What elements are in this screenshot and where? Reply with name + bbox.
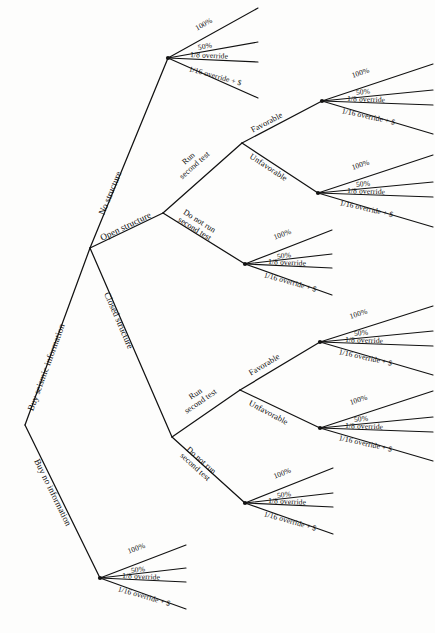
outcome-label-eighth: 1/8 override [345, 336, 383, 345]
edge-open-unfavorable [242, 143, 318, 193]
decision-tree-diagram: Buy seismic information Buy no informati… [0, 0, 435, 633]
chance-node [98, 576, 102, 580]
outcome-label-eighth: 1/8 override [122, 572, 160, 582]
edge-open-favorable [242, 101, 322, 143]
outcome-label-eighth: 1/8 override [345, 422, 383, 431]
outcome-label-eighth: 1/8 override [268, 497, 306, 507]
chance-node [166, 56, 170, 60]
chance-node [318, 340, 322, 344]
chance-node [318, 426, 322, 430]
chance-node [316, 191, 320, 195]
chance-node [320, 99, 324, 103]
outcome-label-eighth: 1/8 override [347, 95, 385, 104]
chance-node [243, 501, 247, 505]
outcome-label-eighth: 1/8 override [347, 187, 385, 196]
chance-node [243, 262, 247, 266]
outcome-label-eighth: 1/8 override [268, 258, 306, 268]
outcome-label-eighth: 1/8 override [190, 51, 228, 61]
